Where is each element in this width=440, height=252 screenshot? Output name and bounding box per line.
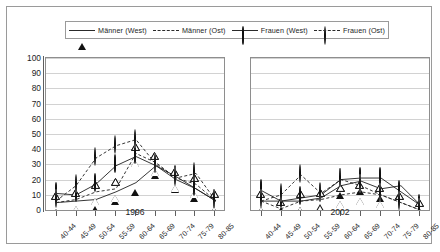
legend-item-frauen-ost: Frauen (Ost) (314, 25, 385, 36)
y-axis-tick-label: 0 (17, 205, 41, 215)
y-axis-tick-label: 10 (17, 190, 41, 200)
marker-circle-open-icon (114, 135, 116, 154)
data-point (134, 130, 136, 148)
chart-legend: Männer (West) Männer (Ost) Frauen (West)… (65, 21, 389, 39)
marker-circle-open-icon (174, 167, 176, 186)
data-point (55, 190, 57, 208)
x-axis-tick-label: 70-74 (382, 221, 402, 241)
y-axis-tick-label: 80 (17, 83, 41, 93)
data-point (193, 163, 195, 181)
x-axis-tick-label: 40-44 (58, 221, 78, 241)
x-axis-tick-label: 50-54 (98, 221, 118, 241)
y-axis-tick-label: 40 (17, 144, 41, 154)
y-axis-tick-label: 100 (17, 53, 41, 63)
legend-item-frauen-west: Frauen (West) (232, 25, 308, 36)
marker-circle-filled-icon (114, 154, 116, 173)
marker-circle-open-icon (193, 162, 195, 181)
marker-circle-open-icon (134, 129, 136, 148)
legend-label: Frauen (Ost) (343, 26, 385, 35)
chart-panel-2002 (250, 57, 430, 211)
x-axis-tick-label: 75-79 (196, 221, 216, 241)
panel-title-1996: 1996 (45, 207, 225, 217)
data-point (213, 190, 215, 208)
data-point (94, 174, 96, 192)
x-axis-tick-label: 60-64 (137, 221, 157, 241)
data-point (379, 184, 381, 202)
legend-symbol-circle-filled-icon (232, 25, 258, 36)
x-axis-tick-label: 75-79 (401, 221, 421, 241)
marker-circle-open-icon (280, 183, 282, 202)
marker-circle-open-icon (55, 189, 57, 208)
panel-title-2002: 2002 (250, 207, 430, 217)
data-point (260, 190, 262, 208)
y-axis-tick-label: 60 (17, 114, 41, 124)
marker-circle-filled-icon (94, 173, 96, 192)
data-point (339, 169, 341, 187)
marker-circle-open-icon (379, 183, 381, 202)
data-point (94, 148, 96, 166)
y-axis-tick-label: 70 (17, 99, 41, 109)
x-axis-tick-label: 65-69 (157, 221, 177, 241)
x-axis-tick-label: 65-69 (362, 221, 382, 241)
legend-item-maenner-west: Männer (West) (69, 25, 147, 36)
data-point (75, 175, 77, 193)
legend-symbol-circle-open-icon (314, 25, 340, 36)
data-point (319, 183, 321, 201)
x-axis-tick-label: 50-54 (303, 221, 323, 241)
marker-circle-filled-icon (134, 145, 136, 164)
y-axis-tick-label: 20 (17, 175, 41, 185)
data-point (299, 165, 301, 183)
x-axis-tick-label: 80-85 (421, 221, 440, 241)
x-axis-tick-label: 80-85 (216, 221, 236, 241)
marker-circle-open-icon (359, 174, 361, 193)
marker-circle-open-icon (319, 182, 321, 201)
marker-circle-open-icon (213, 189, 215, 208)
marker-circle-filled-icon (299, 186, 301, 205)
legend-symbol-triangle-open-icon (153, 25, 179, 36)
data-point (299, 187, 301, 205)
legend-label: Männer (West) (98, 26, 147, 35)
marker-circle-open-icon (260, 189, 262, 208)
marker-triangle-open-icon (111, 178, 119, 202)
legend-item-maenner-ost: Männer (Ost) (153, 25, 226, 36)
y-axis-spine (43, 56, 44, 212)
data-point (114, 136, 116, 154)
y-axis-tick-label: 50 (17, 129, 41, 139)
x-axis-tick-label: 40-44 (263, 221, 283, 241)
x-axis-tick-label: 45-49 (283, 221, 303, 241)
marker-circle-open-icon (94, 147, 96, 166)
marker-circle-open-icon (75, 174, 77, 193)
x-axis-tick-label: 55-59 (322, 221, 342, 241)
x-axis-tick-label: 70-74 (177, 221, 197, 241)
legend-label: Männer (Ost) (182, 26, 226, 35)
marker-triangle-open-icon (336, 184, 344, 208)
y-axis: 1009080706050403020100 (17, 57, 45, 211)
plot-area-2002 (250, 57, 430, 211)
marker-triangle-filled-icon (131, 172, 139, 196)
legend-label: Frauen (West) (261, 26, 308, 35)
data-point (280, 184, 282, 202)
x-axis-tick-label: 55-59 (117, 221, 137, 241)
data-point (359, 175, 361, 193)
chart-panel-1996 (45, 57, 225, 211)
x-axis-tick-label: 60-64 (342, 221, 362, 241)
y-axis-tick-label: 30 (17, 159, 41, 169)
y-axis-tick-label: 90 (17, 68, 41, 78)
marker-circle-open-icon (339, 168, 341, 187)
data-point (154, 154, 156, 172)
data-point (174, 168, 176, 186)
marker-circle-open-icon (154, 153, 156, 172)
marker-circle-open-icon (299, 164, 301, 183)
data-point (111, 178, 119, 196)
x-axis-tick-label: 45-49 (78, 221, 98, 241)
plot-area-1996 (45, 57, 225, 211)
x-axis-labels-1996: 40-4445-4950-5455-5960-6465-6970-7475-79… (41, 217, 241, 247)
figure-panel: Männer (West) Männer (Ost) Frauen (West)… (6, 6, 432, 244)
legend-symbol-triangle-filled-icon (69, 25, 95, 36)
data-point (134, 146, 136, 164)
data-point (131, 172, 139, 190)
x-axis-labels-2002: 40-4445-4950-5455-5960-6465-6970-7475-79… (246, 217, 440, 247)
data-point (114, 155, 116, 173)
